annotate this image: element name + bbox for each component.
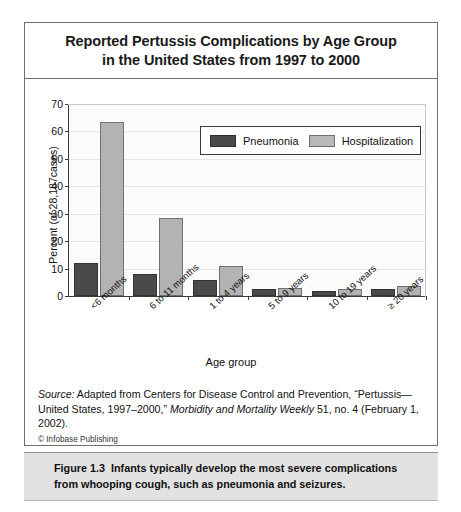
- legend-label-hospitalization: Hospitalization: [342, 135, 414, 147]
- chart-title-line-2: in the United States from 1997 to 2000: [102, 51, 360, 70]
- bar-pneumonia: [252, 289, 276, 296]
- x-tick-mark: [188, 296, 189, 300]
- chart-legend: Pneumonia Hospitalization: [200, 126, 421, 155]
- bar-pneumonia: [193, 280, 217, 296]
- chart-title: Reported Pertussis Complications by Age …: [25, 23, 437, 79]
- legend-swatch-hospitalization: [309, 135, 335, 147]
- x-tick-mark: [307, 296, 308, 300]
- y-tick-mark: [65, 131, 69, 132]
- legend-item-pneumonia: Pneumonia: [210, 135, 299, 147]
- y-tick-label: 20: [51, 235, 63, 247]
- y-tick-mark: [65, 159, 69, 160]
- source-journal: Morbidity and Mortality Weekly: [170, 403, 314, 415]
- caption-figure-number: Figure 1.3: [54, 462, 105, 474]
- source-text: Source: Adapted from Centers for Disease…: [38, 387, 424, 431]
- legend-swatch-pneumonia: [210, 135, 236, 147]
- y-tick-label: 40: [51, 180, 63, 192]
- y-tick-label: 10: [51, 263, 63, 275]
- x-axis-label: Age group: [25, 356, 437, 368]
- y-tick-mark: [65, 186, 69, 187]
- x-tick-mark: [248, 296, 249, 300]
- bar-pneumonia: [371, 289, 395, 296]
- source-label: Source:: [38, 388, 75, 400]
- y-tick-label: 30: [51, 208, 63, 220]
- legend-label-pneumonia: Pneumonia: [243, 135, 299, 147]
- chart-canvas: Percent (of 28,187cases) 010203040506070…: [25, 79, 437, 379]
- bar-hospitalization: [100, 122, 124, 296]
- y-tick-label: 60: [51, 125, 63, 137]
- figure-caption: Figure 1.3 Infants typically develop the…: [24, 452, 438, 501]
- x-tick-mark: [426, 296, 427, 300]
- legend-item-hospitalization: Hospitalization: [309, 135, 414, 147]
- gridline: [69, 104, 426, 105]
- y-tick-label: 70: [51, 98, 63, 110]
- y-tick-mark: [65, 296, 69, 297]
- y-tick-mark: [65, 269, 69, 270]
- source-note: Source: Adapted from Centers for Disease…: [25, 381, 437, 431]
- y-tick-mark: [65, 214, 69, 215]
- x-tick-mark: [367, 296, 368, 300]
- y-tick-label: 50: [51, 153, 63, 165]
- bar-pneumonia: [133, 274, 157, 296]
- caption-text: Figure 1.3 Infants typically develop the…: [54, 461, 422, 492]
- y-tick-mark: [65, 241, 69, 242]
- bar-pneumonia: [74, 263, 98, 296]
- figure-page: Reported Pertussis Complications by Age …: [0, 0, 461, 512]
- copyright-line: © Infobase Publishing: [38, 435, 118, 444]
- y-tick-mark: [65, 104, 69, 105]
- chart-title-line-1: Reported Pertussis Complications by Age …: [65, 32, 397, 51]
- bar-pneumonia: [312, 291, 336, 296]
- figure-frame: Reported Pertussis Complications by Age …: [24, 22, 438, 446]
- y-tick-label: 0: [57, 290, 63, 302]
- x-tick-mark: [129, 296, 130, 300]
